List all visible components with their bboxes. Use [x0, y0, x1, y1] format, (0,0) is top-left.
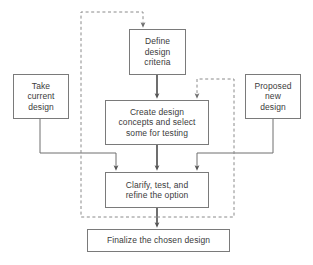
node-proposed-new-design[interactable]: Proposednewdesign — [245, 74, 301, 119]
node-label: Definedesigncriteria — [142, 36, 172, 68]
node-label: Clarify, test, andrefine the option — [124, 180, 191, 201]
node-label: Finalize the chosen design — [105, 235, 212, 246]
node-label: Create designconcepts and selectsome for… — [116, 107, 197, 139]
node-label: Takecurrentdesign — [25, 81, 56, 113]
node-clarify-test-refine[interactable]: Clarify, test, andrefine the option — [105, 172, 209, 208]
node-create-design-concepts[interactable]: Create designconcepts and selectsome for… — [105, 100, 209, 145]
node-define-design-criteria[interactable]: Definedesigncriteria — [129, 29, 186, 75]
flowchart-canvas: Definedesigncriteria Takecurrentdesign P… — [0, 0, 313, 265]
node-take-current-design[interactable]: Takecurrentdesign — [13, 74, 69, 119]
node-label: Proposednewdesign — [252, 81, 293, 113]
node-finalize-chosen-design[interactable]: Finalize the chosen design — [87, 229, 230, 252]
